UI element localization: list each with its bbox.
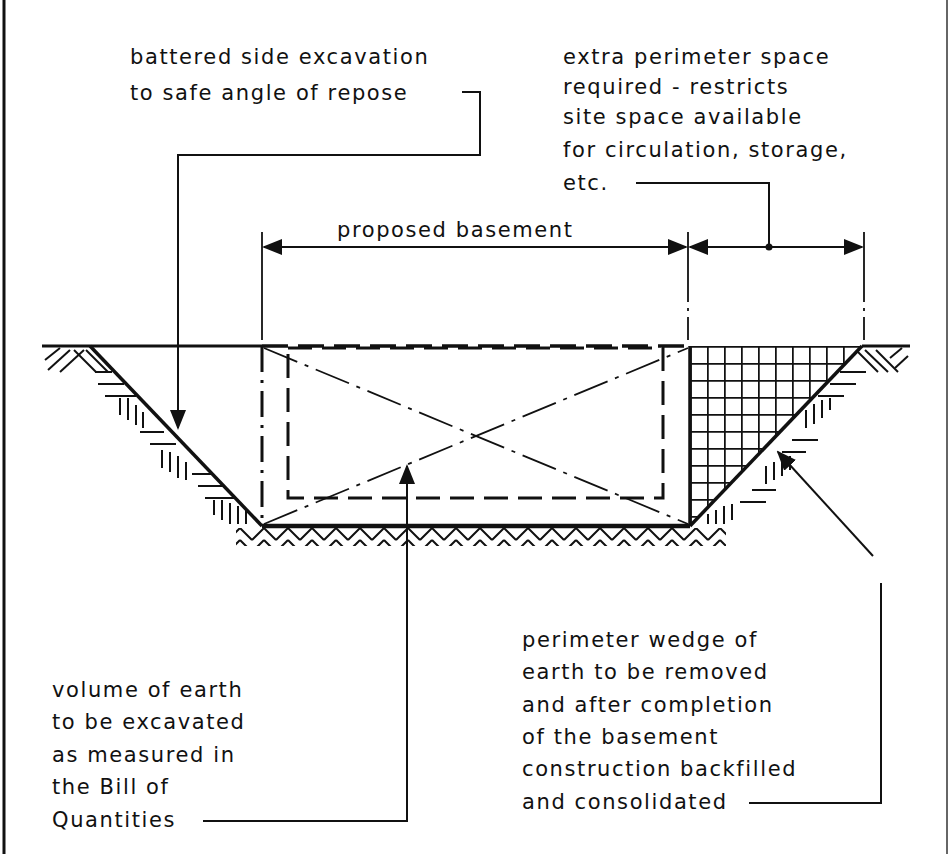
- svg-text:to be excavated: to be excavated: [52, 710, 246, 734]
- battered-slope-left: [90, 346, 262, 526]
- svg-text:of the basement: of the basement: [522, 725, 719, 749]
- dimension-extra-perimeter: [690, 244, 862, 251]
- svg-text:the Bill of: the Bill of: [52, 775, 170, 799]
- svg-text:to safe angle of repose: to safe angle of repose: [130, 81, 408, 105]
- leader-extra-space: [636, 183, 769, 247]
- svg-text:Quantities: Quantities: [52, 808, 176, 832]
- leader-wedge: [749, 452, 881, 803]
- annotation-volume: volume of earth to be excavated as measu…: [52, 678, 246, 832]
- svg-text:perimeter wedge of: perimeter wedge of: [522, 628, 758, 652]
- earth-hatching-left-slope: [95, 372, 246, 524]
- excavation-base: [236, 526, 726, 546]
- svg-text:for circulation, storage,: for circulation, storage,: [563, 138, 848, 162]
- leader-volume: [203, 466, 407, 821]
- excavation-diagram: proposed basement battered side excavati…: [0, 0, 949, 854]
- dimension-proposed-basement: proposed basement: [264, 218, 686, 247]
- svg-text:and after completion: and after completion: [522, 693, 774, 717]
- svg-text:etc.: etc.: [563, 171, 609, 195]
- leader-battered-side: [178, 92, 480, 428]
- svg-text:volume of earth: volume of earth: [52, 678, 243, 702]
- svg-text:earth to be removed: earth to be removed: [522, 660, 769, 684]
- dimension-label-proposed-basement: proposed basement: [337, 218, 574, 242]
- svg-text:as measured in: as measured in: [52, 743, 236, 767]
- svg-text:construction backfilled: construction backfilled: [522, 757, 797, 781]
- dimension-extension-lines: [262, 232, 864, 340]
- earth-hatching-left-surface: [45, 348, 108, 372]
- svg-text:required - restricts: required - restricts: [563, 75, 789, 99]
- svg-text:battered side excavation: battered side excavation: [130, 45, 429, 69]
- annotation-battered-side: battered side excavation to safe angle o…: [130, 45, 429, 105]
- svg-text:and consolidated: and consolidated: [522, 790, 728, 814]
- svg-text:extra perimeter space: extra perimeter space: [563, 45, 830, 69]
- annotation-extra-space: extra perimeter space required - restric…: [563, 45, 848, 195]
- annotation-wedge: perimeter wedge of earth to be removed a…: [522, 628, 797, 814]
- svg-text:site space available: site space available: [563, 105, 803, 129]
